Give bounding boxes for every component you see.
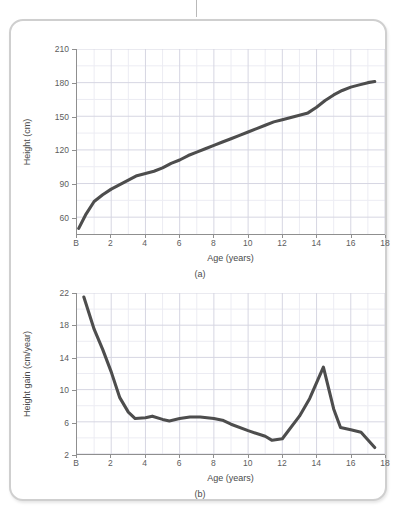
y-tick-label: 22 (60, 289, 69, 298)
height-gain-curve-b (77, 293, 385, 454)
x-tick-label: 8 (211, 459, 216, 468)
x-tick-label: 16 (346, 459, 355, 468)
x-tick-label: 4 (142, 239, 147, 248)
x-tick-label: 16 (346, 239, 355, 248)
y-tick-label: 180 (55, 79, 69, 88)
x-tick-label: B (73, 239, 79, 248)
y-tick-label: 60 (60, 214, 69, 223)
plot-area-a (76, 49, 385, 235)
x-tick-group-a: B24681012141618 (76, 235, 385, 251)
x-tick-label: 2 (108, 239, 113, 248)
x-tick-label: 12 (277, 459, 286, 468)
y-tick-label: 150 (55, 112, 69, 121)
y-tick-label: 10 (60, 386, 69, 395)
x-tick-label: 18 (380, 459, 389, 468)
y-tick-label: 120 (55, 146, 69, 155)
x-tick-label: 2 (108, 459, 113, 468)
panel-caption-b: (b) (11, 489, 389, 499)
x-tick-label: 8 (211, 239, 216, 248)
x-tick-label: 10 (243, 239, 252, 248)
plot-wrap-a: Height (cm) 6090120150180210 B2468101214… (11, 31, 389, 271)
y-tick-group-b: 2610141822 (11, 293, 76, 455)
x-tick-label: 10 (243, 459, 252, 468)
y-tick-label: 90 (60, 180, 69, 189)
y-tick-label: 14 (60, 354, 69, 363)
plot-wrap-b: Height gain (cm/year) 2610141822 B246810… (11, 273, 389, 501)
x-tick-label: 4 (142, 459, 147, 468)
figure-card: Height (cm) 6090120150180210 B2468101214… (9, 19, 387, 501)
y-tick-label: 2 (64, 451, 69, 460)
x-axis-title-a: Age (years) (76, 253, 385, 263)
y-tick-label: 18 (60, 321, 69, 330)
height-curve-a (77, 49, 385, 234)
y-tick-label: 6 (64, 418, 69, 427)
x-tick-label: 12 (277, 239, 286, 248)
figure-panel-b: Height gain (cm/year) 2610141822 B246810… (11, 273, 389, 501)
figure-panel-a: Height (cm) 6090120150180210 B2468101214… (11, 31, 389, 271)
x-axis-title-b: Age (years) (76, 473, 385, 483)
x-tick-label: 14 (312, 239, 321, 248)
x-tick-label: B (73, 459, 79, 468)
x-tick-label: 6 (177, 459, 182, 468)
y-tick-group-a: 6090120150180210 (11, 49, 76, 235)
plot-area-b (76, 293, 385, 455)
x-tick-group-b: B24681012141618 (76, 455, 385, 471)
x-tick-label: 6 (177, 239, 182, 248)
x-tick-label: 14 (312, 459, 321, 468)
page-gutter-rule (196, 0, 197, 17)
y-tick-label: 210 (55, 45, 69, 54)
x-tick-label: 18 (380, 239, 389, 248)
